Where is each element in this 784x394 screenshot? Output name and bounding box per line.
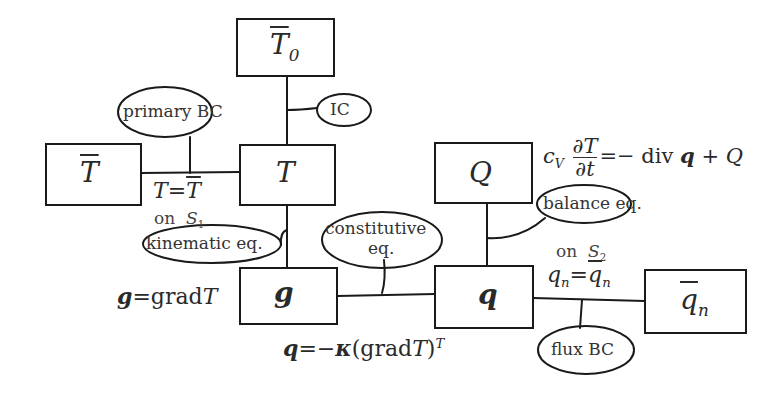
equation-kinematic: g=gradT <box>117 283 217 309</box>
eq-fbc-lsub: n <box>561 275 570 290</box>
box-q: q <box>478 278 498 311</box>
bubble-balance: balance eq. <box>543 193 642 213</box>
box-T: T <box>276 156 295 189</box>
box-T0bar: T0 <box>270 28 299 65</box>
bubble-kinematic: kinematic eq. <box>146 233 263 253</box>
q-symbol: q <box>478 278 498 311</box>
eq-bal-fraction: ∂T ∂t <box>573 135 598 180</box>
eq-fbc-eq: = <box>570 262 588 287</box>
eq-const-sup: T <box>435 336 444 351</box>
eq-const-paren: (grad <box>352 336 412 361</box>
eq-const-kappa: κ <box>335 335 352 361</box>
box-qnbar: qn <box>680 283 709 320</box>
eq-kin-eq: =grad <box>132 284 202 309</box>
eq-fbc-rhs: q <box>588 262 602 287</box>
box-Tbar: T <box>80 156 99 189</box>
eq-kin-lhs: g <box>117 283 132 309</box>
eq-const-T: T <box>412 336 427 361</box>
eq-bal-csub: V <box>555 156 564 171</box>
eq-pbc-eq: = <box>168 178 186 203</box>
bubble-constitutive-line2: eq. <box>368 238 394 258</box>
eq-bal-rhs: =− div <box>599 144 673 168</box>
bubble-ic: IC <box>330 99 350 119</box>
label-on-s2: on S2 <box>556 241 606 263</box>
eq-bal-plus: + Q <box>695 144 743 168</box>
g-symbol: g <box>274 276 294 309</box>
eq-kin-rhs: T <box>203 284 218 309</box>
eq-fbc-rsub: n <box>602 275 611 290</box>
T-symbol: T <box>276 156 295 189</box>
equation-balance: cV ∂T ∂t =− div q + Q <box>543 135 743 180</box>
T0bar-subscript: 0 <box>289 45 300 65</box>
Tbar-symbol: T <box>80 156 99 189</box>
eq-bal-c: c <box>543 144 555 168</box>
bubble-flux-bc: flux BC <box>551 339 614 359</box>
eq-bal-den: ∂t <box>573 158 598 180</box>
eq-fbc-lhs: q <box>547 262 561 287</box>
on-s2-S: S <box>588 241 600 261</box>
equation-constitutive: q=−κ(gradT)T <box>283 335 444 361</box>
eq-const-eq: =− <box>298 336 335 361</box>
box-Q: Q <box>469 156 492 189</box>
eq-const-lhs: q <box>283 335 298 361</box>
qnbar-subscript: n <box>698 300 709 320</box>
box-g: g <box>274 276 294 309</box>
on-s2-on: on <box>556 241 577 261</box>
T0bar-symbol: T <box>270 28 289 61</box>
on-s1-on: on <box>154 208 175 228</box>
qnbar-symbol: q <box>680 283 698 316</box>
equation-primary-bc: T=T <box>153 178 201 203</box>
eq-bal-num: ∂T <box>573 135 598 158</box>
eq-bal-q: q <box>680 143 695 168</box>
eq-pbc-lhs: T <box>153 178 168 203</box>
equation-flux-bc: qn=qn <box>547 262 611 290</box>
bubble-primary-bc: primary BC <box>123 101 223 121</box>
eq-pbc-rhs: T <box>186 178 201 203</box>
on-s1-S: S <box>186 208 198 228</box>
bubble-constitutive-line1: constitutive <box>325 218 426 238</box>
label-on-s1: on S1 <box>154 208 204 230</box>
Q-symbol: Q <box>469 156 492 189</box>
on-s1-sub: 1 <box>198 219 204 230</box>
